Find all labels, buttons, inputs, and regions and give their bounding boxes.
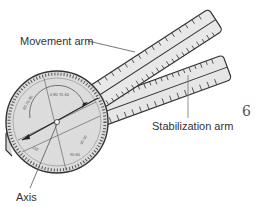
movement-arm-leader: [88, 41, 135, 52]
goniometer-illustration: 0 80 70 60 60 70 80 90 60 40 30 110: [0, 0, 258, 207]
axis-label: Axis: [16, 192, 37, 203]
protractor-dial: 0 80 70 60 60 70 80 90 60 40 30 110: [6, 71, 108, 173]
movement-arm-label: Movement arm: [20, 36, 93, 47]
stabilization-arm-label: Stabilization arm: [152, 121, 233, 132]
publisher-logo-icon: 6: [242, 104, 251, 118]
goniometer-diagram: 0 80 70 60 60 70 80 90 60 40 30 110 Move…: [0, 0, 258, 207]
svg-text:0 80 70 60: 0 80 70 60: [50, 92, 70, 97]
svg-text:90 60: 90 60: [70, 152, 81, 157]
